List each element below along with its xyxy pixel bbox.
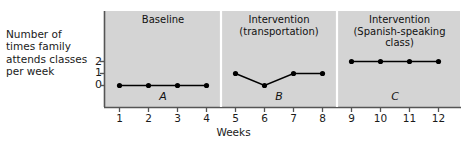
x-tick-label-1: 1 xyxy=(110,113,130,124)
phase-b-title-line-1: Intervention xyxy=(223,14,335,26)
x-tick-label-10: 10 xyxy=(371,113,391,124)
x-tick-label-9: 9 xyxy=(342,113,362,124)
phase-letter-c: C xyxy=(385,90,405,103)
data-point-week-6 xyxy=(262,83,267,88)
data-point-week-7 xyxy=(291,71,296,76)
data-point-week-4 xyxy=(204,83,209,88)
x-tick-label-2: 2 xyxy=(139,113,159,124)
phase-letter-a: A xyxy=(153,90,173,103)
x-tick-label-5: 5 xyxy=(226,113,246,124)
phase-a-title: Baseline xyxy=(107,14,219,26)
x-axis-title: Weeks xyxy=(0,126,467,138)
data-point-week-9 xyxy=(349,59,354,64)
phase-c-title-line-2: (Spanish-speaking xyxy=(339,26,460,38)
single-subject-line-chart: Number of times family attends classes p… xyxy=(0,0,467,143)
x-tick-label-8: 8 xyxy=(313,113,333,124)
phase-c-title: Intervention (Spanish-speaking class) xyxy=(339,14,460,49)
data-point-week-11 xyxy=(407,59,412,64)
x-tick-label-11: 11 xyxy=(400,113,420,124)
data-point-week-12 xyxy=(436,59,441,64)
phase-a-title-line-1: Baseline xyxy=(107,14,219,26)
data-point-week-10 xyxy=(378,59,383,64)
x-tick-label-3: 3 xyxy=(168,113,188,124)
data-point-week-1 xyxy=(117,83,122,88)
phase-c-title-line-3: class) xyxy=(339,37,460,49)
x-tick-label-4: 4 xyxy=(197,113,217,124)
phase-b-title-line-2: (transportation) xyxy=(223,26,335,38)
x-tick-label-12: 12 xyxy=(429,113,449,124)
data-point-week-2 xyxy=(146,83,151,88)
x-tick-label-7: 7 xyxy=(284,113,304,124)
phase-b-title: Intervention (transportation) xyxy=(223,14,335,37)
phase-c-title-line-1: Intervention xyxy=(339,14,460,26)
x-tick-label-6: 6 xyxy=(255,113,275,124)
data-point-week-5 xyxy=(233,71,238,76)
phase-letter-b: B xyxy=(269,90,289,103)
data-point-week-3 xyxy=(175,83,180,88)
data-point-week-8 xyxy=(320,71,325,76)
